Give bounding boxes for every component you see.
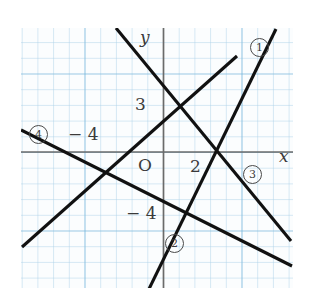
line-label-1: 1 xyxy=(250,38,269,57)
origin-label: O xyxy=(138,157,152,174)
x-axis-label: x xyxy=(279,148,289,165)
line-label-4: 4 xyxy=(29,125,48,144)
x-tick-label-2: 2 xyxy=(190,158,201,175)
x-tick-label-minus4: − 4 xyxy=(68,126,98,143)
y-tick-label-3: 3 xyxy=(135,96,146,113)
line-label-2: 2 xyxy=(165,234,184,253)
graph-figure: x y O − 4 2 3 − 4 1 2 3 4 xyxy=(0,0,314,299)
y-axis-label: y xyxy=(140,29,150,46)
grid-area xyxy=(21,28,293,288)
major-gridlines xyxy=(21,28,293,288)
line-label-3: 3 xyxy=(243,165,262,184)
y-tick-label-minus4: − 4 xyxy=(126,205,156,222)
